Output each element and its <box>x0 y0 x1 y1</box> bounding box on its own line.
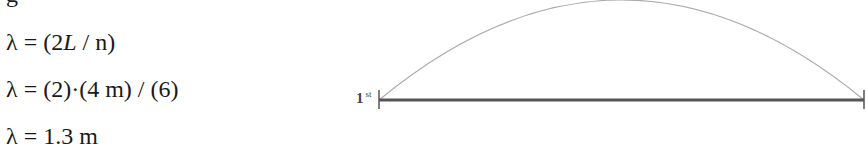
wave-arc <box>379 0 864 100</box>
standing-wave-diagram <box>0 0 866 157</box>
